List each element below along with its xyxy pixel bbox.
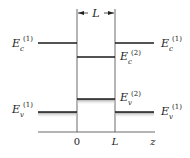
label-ec1-left: E c (1) — [11, 35, 33, 53]
svg-text:E: E — [119, 50, 128, 63]
svg-text:c: c — [169, 45, 173, 53]
svg-text:(2): (2) — [131, 90, 141, 98]
tick-label-L: L — [111, 136, 119, 147]
ev1-left-shade — [38, 112, 77, 118]
width-dimension-arrow: L — [78, 7, 114, 20]
svg-text:(1): (1) — [23, 35, 33, 43]
label-ev1-right: E v (1) — [160, 103, 182, 121]
label-ec1-right: E c (1) — [160, 35, 182, 53]
width-label: L — [91, 7, 99, 20]
band-diagram: L 0 L z E c (1) E c (1) E c (2) E v (2) … — [0, 0, 190, 158]
svg-text:(1): (1) — [172, 35, 182, 43]
svg-text:(1): (1) — [23, 101, 33, 109]
svg-text:v: v — [20, 111, 24, 119]
svg-text:(2): (2) — [131, 49, 141, 57]
svg-text:c: c — [128, 58, 132, 66]
axis-label-z: z — [149, 136, 156, 147]
ev2-shade — [77, 99, 115, 105]
svg-text:E: E — [119, 91, 128, 104]
svg-text:v: v — [128, 99, 132, 107]
svg-text:(1): (1) — [172, 103, 182, 111]
svg-text:E: E — [160, 37, 169, 50]
tick-label-0: 0 — [74, 136, 80, 147]
svg-text:c: c — [20, 45, 24, 53]
label-ev1-left: E v (1) — [11, 101, 33, 119]
svg-text:v: v — [169, 113, 173, 121]
label-ev2: E v (2) — [119, 90, 141, 107]
label-ec2: E c (2) — [119, 49, 141, 66]
ev1-right-shade — [115, 112, 154, 118]
svg-text:E: E — [11, 37, 20, 50]
svg-text:E: E — [160, 105, 169, 118]
svg-text:E: E — [11, 103, 20, 116]
